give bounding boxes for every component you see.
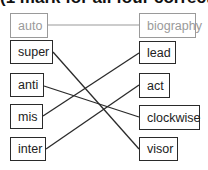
word-box-visor[interactable]: visor [139, 137, 178, 161]
prefix-box-mis[interactable]: mis [10, 104, 43, 129]
example-word-box: biography [139, 13, 196, 38]
line-mis-lead [43, 53, 139, 116]
prefix-box-anti[interactable]: anti [10, 73, 44, 97]
prefix-box-super[interactable]: super [10, 40, 53, 64]
line-inter-act [46, 85, 139, 149]
word-box-clockwise[interactable]: clockwise [139, 105, 200, 130]
word-box-act[interactable]: act [139, 73, 170, 98]
line-anti-clockwise [44, 86, 139, 117]
example-prefix-box: auto [10, 13, 48, 38]
word-box-lead[interactable]: lead [139, 41, 176, 64]
prefix-box-inter[interactable]: inter [10, 137, 46, 161]
